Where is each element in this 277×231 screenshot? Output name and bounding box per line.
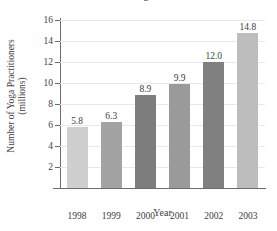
y-axis-label-line1: Number of Yoga Practitioners [6, 39, 18, 152]
x-axis-label: Year [60, 207, 265, 218]
bar-value-label: 8.9 [139, 84, 151, 94]
gridline [60, 41, 265, 42]
gridline [60, 167, 265, 168]
y-axis-label-line2: (millions) [17, 77, 29, 114]
gridline [60, 146, 265, 147]
y-tick-label: 4 [48, 141, 53, 151]
gridline [60, 104, 265, 105]
tick-mark [55, 41, 60, 42]
x-axis-line [53, 188, 266, 189]
tick-mark [55, 20, 60, 21]
y-tick-label: 14 [44, 36, 54, 46]
gridline [60, 125, 265, 126]
y-tick-label: 2 [48, 162, 53, 172]
plot-area: 2468101214165.819986.319998.920009.92001… [60, 20, 265, 188]
y-tick-label: 12 [44, 57, 54, 67]
tick-mark [55, 104, 60, 105]
tick-mark [55, 62, 60, 63]
bar-2003: 14.8 [237, 33, 258, 188]
bar-1999: 6.3 [101, 122, 122, 188]
tick-mark [55, 125, 60, 126]
y-axis-label: Number of Yoga Practitioners (millions) [4, 0, 30, 196]
chart-title: Number of U.S. Yoga Practitioners [0, 0, 277, 3]
bar-value-label: 14.8 [240, 22, 257, 32]
bar-value-label: 9.9 [174, 73, 186, 83]
bar-2001: 9.9 [169, 84, 190, 188]
y-tick-label: 16 [44, 15, 54, 25]
gridline [60, 83, 265, 84]
tick-mark [55, 146, 60, 147]
bar-value-label: 12.0 [205, 51, 222, 61]
bar-value-label: 6.3 [105, 111, 117, 121]
bar-2000: 8.9 [135, 95, 156, 188]
bar-1998: 5.8 [67, 127, 88, 188]
y-tick-label: 8 [48, 99, 53, 109]
bar-value-label: 5.8 [71, 116, 83, 126]
tick-mark [55, 167, 60, 168]
tick-mark [55, 83, 60, 84]
y-tick-label: 10 [44, 78, 54, 88]
gridline [60, 62, 265, 63]
bar-2002: 12.0 [203, 62, 224, 188]
gridline [60, 20, 265, 21]
y-tick-label: 6 [48, 120, 53, 130]
